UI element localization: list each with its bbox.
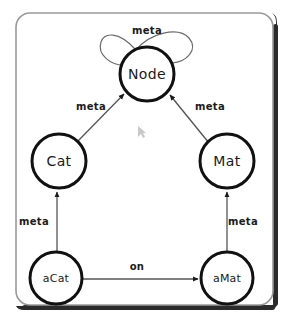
node-Cat[interactable]: Cat xyxy=(32,134,86,188)
node-label-acat: aCat xyxy=(43,272,70,285)
node-label-mat: Mat xyxy=(213,153,240,169)
node-Mat[interactable]: Mat xyxy=(200,134,254,188)
edge-label-node-self: meta xyxy=(132,25,162,36)
node-label-amat: aMat xyxy=(213,272,242,285)
graph-svg: meta meta meta meta meta on xyxy=(0,0,287,331)
edge-label-mat-node: meta xyxy=(195,101,225,112)
edge-label-amat-mat: meta xyxy=(228,216,258,227)
diagram-canvas: meta meta meta meta meta on xyxy=(0,0,287,331)
node-aMat[interactable]: aMat xyxy=(201,252,253,304)
node-label-cat: Cat xyxy=(46,153,71,169)
node-Node[interactable]: Node xyxy=(120,47,174,101)
node-label-node: Node xyxy=(128,66,166,82)
edge-label-acat-cat: meta xyxy=(19,216,49,227)
edge-label-acat-amat: on xyxy=(130,261,145,272)
edge-label-cat-node: meta xyxy=(76,101,106,112)
node-aCat[interactable]: aCat xyxy=(30,252,82,304)
